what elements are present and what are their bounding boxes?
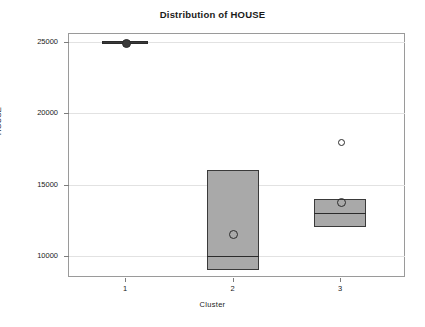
outlier-marker [338, 139, 345, 146]
x-tick-mark [125, 278, 126, 282]
x-tick-mark [340, 278, 341, 282]
y-tick-label: 15000 [6, 180, 58, 189]
mean-marker [229, 230, 238, 239]
y-tick-mark [64, 113, 69, 114]
gridline [68, 113, 405, 114]
x-axis-title: Cluster [0, 300, 425, 309]
x-tick-label: 3 [320, 284, 360, 293]
y-tick-label: 10000 [6, 251, 58, 260]
y-tick-mark [64, 185, 69, 186]
median-line [207, 256, 259, 257]
y-tick-label: 25000 [6, 37, 58, 46]
mean-marker [337, 198, 346, 207]
x-tick-label: 2 [213, 284, 253, 293]
x-tick-label: 1 [105, 284, 145, 293]
y-tick-label: 20000 [6, 108, 58, 117]
y-tick-mark [64, 42, 69, 43]
mean-marker [122, 39, 131, 48]
chart-screenshot: Distribution of HOUSE 100001500020000250… [0, 0, 425, 327]
y-axis-title: HOUSE [0, 107, 3, 135]
x-tick-mark [233, 278, 234, 282]
y-tick-mark [64, 256, 69, 257]
median-line [314, 213, 366, 214]
plot-area [68, 33, 405, 277]
page-title: Distribution of HOUSE [0, 9, 425, 20]
